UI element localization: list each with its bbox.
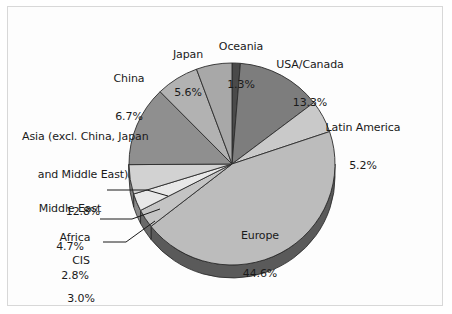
slice-label-usa-canada-name: USA/Canada — [272, 59, 348, 72]
slice-label-asia-name-line1: Asia (excl. China, Japan — [22, 131, 144, 144]
slice-label-japan-value: 5.6% — [165, 87, 211, 100]
slice-label-europe: Europe 44.6% — [228, 205, 292, 305]
pie-chart-figure: China 6.7% Japan 5.6% Oceania 1.3% USA/C… — [0, 0, 452, 314]
slice-label-latin-america-value: 5.2% — [325, 160, 401, 173]
slice-label-cis-name: CIS — [60, 255, 102, 268]
slice-label-oceania-name: Oceania — [212, 41, 270, 54]
slice-label-cis: CIS 3.0% — [60, 230, 102, 314]
slice-label-china-name: China — [100, 73, 158, 86]
slice-label-oceania-value: 1.3% — [212, 79, 270, 92]
slice-label-europe-name: Europe — [228, 230, 292, 243]
slice-label-latin-america: Latin America 5.2% — [325, 97, 401, 197]
slice-label-oceania: Oceania 1.3% — [212, 16, 270, 116]
slice-label-europe-value: 44.6% — [228, 268, 292, 281]
slice-label-latin-america-name: Latin America — [325, 122, 401, 135]
slice-label-japan: Japan 5.6% — [165, 24, 211, 124]
slice-label-cis-value: 3.0% — [60, 293, 102, 306]
slice-label-japan-name: Japan — [165, 49, 211, 62]
